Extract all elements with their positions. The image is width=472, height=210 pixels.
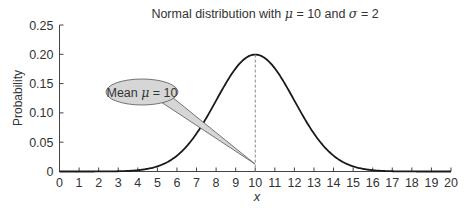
y-axis-ticks: 00.050.100.150.200.25	[29, 19, 63, 180]
y-tick-label: 0.20	[29, 48, 53, 62]
y-tick-label: 0.05	[29, 136, 53, 150]
x-tick-label: 5	[154, 176, 161, 190]
x-tick-label: 15	[346, 176, 360, 190]
x-tick-label: 16	[366, 176, 380, 190]
x-tick-label: 20	[444, 176, 458, 190]
y-tick-label: 0.25	[29, 19, 53, 33]
x-tick-label: 9	[232, 176, 239, 190]
x-tick-label: 1	[76, 176, 83, 190]
y-tick-label: 0	[47, 165, 54, 179]
x-tick-label: 17	[385, 176, 399, 190]
chart-title: Normal distribution with μ = 10 and σ = …	[151, 6, 378, 21]
callout-text: Mean μ = 10	[106, 85, 177, 100]
x-tick-label: 6	[173, 176, 180, 190]
x-tick-label: 4	[134, 176, 141, 190]
y-tick-label: 0.15	[29, 77, 53, 91]
callout-tail	[158, 97, 255, 164]
x-tick-label: 14	[327, 176, 341, 190]
x-tick-label: 19	[424, 176, 438, 190]
x-tick-label: 2	[95, 176, 102, 190]
y-tick-label: 0.10	[29, 106, 53, 120]
x-tick-label: 10	[248, 176, 262, 190]
x-tick-label: 3	[115, 176, 122, 190]
x-tick-label: 7	[193, 176, 200, 190]
mean-callout: Mean μ = 10	[106, 79, 255, 164]
x-tick-label: 11	[268, 176, 281, 190]
x-tick-label: 0	[56, 176, 63, 190]
normal-distribution-chart: Normal distribution with μ = 10 and σ = …	[0, 0, 472, 210]
x-tick-label: 18	[405, 176, 419, 190]
y-axis-label: Probability	[11, 70, 25, 126]
x-tick-label: 8	[213, 176, 220, 190]
x-tick-label: 12	[287, 176, 301, 190]
x-axis-label: x	[253, 189, 261, 204]
x-tick-label: 13	[307, 176, 321, 190]
